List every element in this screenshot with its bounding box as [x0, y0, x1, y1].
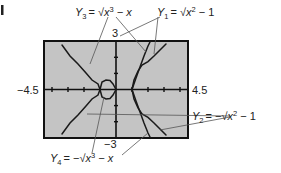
xmax-label: 4.5 [192, 84, 207, 96]
label-y4: Y4= −√x3 − x [50, 151, 114, 167]
ymax-label: 3 [112, 27, 118, 39]
ymin-label: −3 [104, 138, 117, 150]
label-y1: Y1= √x2 − 1 [157, 5, 214, 21]
label-y2: Y2= −√x2 − 1 [192, 109, 256, 125]
corner-mark [1, 5, 4, 15]
label-y3: Y3= √x3 − x [75, 5, 132, 21]
xmin-label: −4.5 [17, 84, 39, 96]
graph-figure: 3 −3 −4.5 4.5 Y3= √x3 − x Y1= √x2 − 1 Y2… [0, 0, 281, 173]
